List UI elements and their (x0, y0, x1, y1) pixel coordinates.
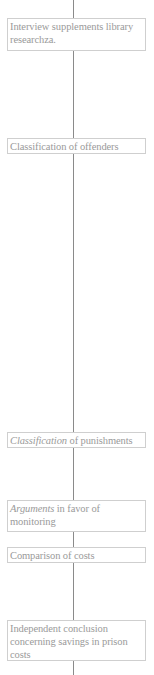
flow-node-comparison-costs: Comparison of costs (7, 547, 146, 563)
connector-n2-n3 (73, 154, 74, 432)
flow-node-arguments-monitoring: Arguments in favor of monitoring (7, 500, 146, 532)
node-label: Independent conclusion concerning saving… (10, 623, 128, 660)
connector-top (73, 0, 74, 18)
node-label-italic: Arguments (10, 503, 54, 514)
connector-n1-n2 (73, 51, 74, 138)
connector-bottom (73, 661, 74, 675)
flow-node-classification-punishments: Classification of punishments (7, 432, 146, 448)
connector-n4-n5 (73, 532, 74, 547)
node-label: Interview supplements library researchza… (10, 21, 133, 45)
connector-n5-n6 (73, 563, 74, 620)
node-label: Comparison of costs (10, 550, 94, 561)
node-label: of punishments (67, 435, 133, 446)
flow-node-classification-offenders: Classification of offenders (7, 138, 146, 154)
flow-node-independent-conclusion: Independent conclusion concerning saving… (7, 620, 146, 661)
flow-node-interview: Interview supplements library researchza… (7, 18, 146, 51)
node-label: Classification of offenders (10, 141, 119, 152)
connector-n3-n4 (73, 448, 74, 500)
node-label-italic: Classification (10, 435, 67, 446)
